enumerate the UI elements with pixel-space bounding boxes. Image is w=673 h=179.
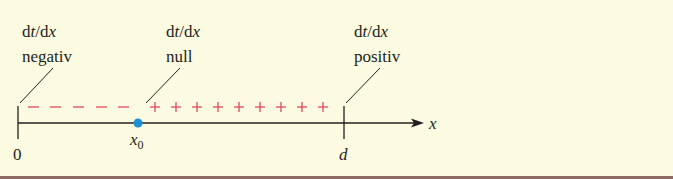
label-zero-text: null xyxy=(166,47,193,66)
leader-positive xyxy=(346,68,380,103)
axis-variable-label: x xyxy=(428,114,437,133)
label-negative-derivative: dt/dx xyxy=(22,22,56,41)
leader-zero xyxy=(146,68,180,103)
label-zero-derivative: dt/dx xyxy=(166,22,200,41)
sign-diagram: dt/dx negativ dt/dx null dt/dx positiv x… xyxy=(0,0,673,179)
label-negative-text: negativ xyxy=(22,47,73,66)
label-positive-text: positiv xyxy=(354,47,401,66)
point-label: x0 xyxy=(129,130,144,152)
tick-label-start: 0 xyxy=(13,145,22,164)
tick-label-end: d xyxy=(339,145,348,164)
critical-point xyxy=(134,119,143,128)
leader-negative xyxy=(20,68,53,103)
label-positive-derivative: dt/dx xyxy=(354,22,388,41)
plus-signs xyxy=(150,102,328,112)
